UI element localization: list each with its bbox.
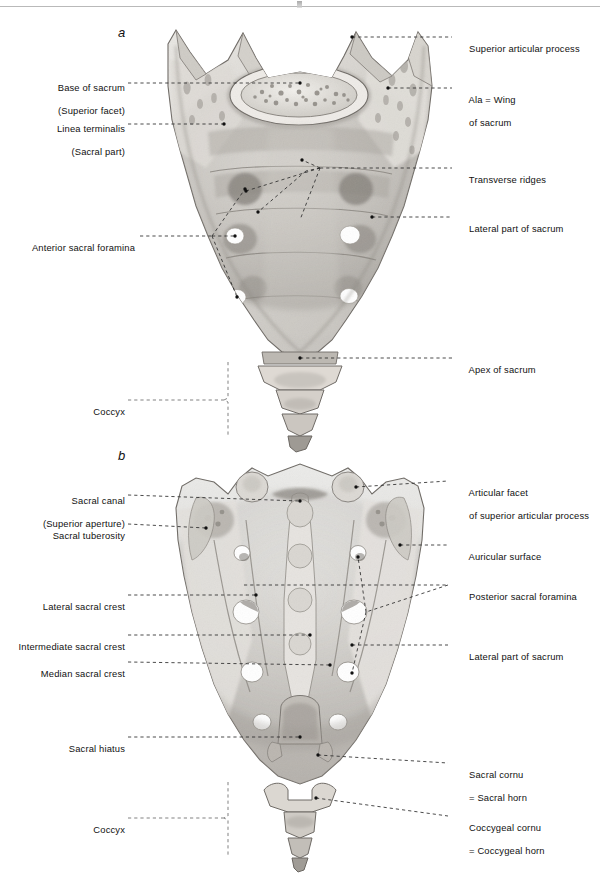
label-line-2: of sacrum xyxy=(469,117,512,128)
label-line-2: of superior articular process xyxy=(469,510,589,521)
label-linea-terminalis: Linea terminalis (Sacral part) xyxy=(0,112,125,169)
coccyx-brackets xyxy=(128,362,228,856)
panel-letter-b: b xyxy=(118,448,125,463)
label-anterior-sacral-foramina: Anterior sacral foramina xyxy=(0,231,135,265)
label-coccygeal-cornu: Coccygeal cornu = Coccygeal horn xyxy=(458,811,600,868)
coccyx-anterior-art xyxy=(258,366,342,452)
label-line-2: (Sacral part) xyxy=(71,146,125,157)
label-line-1: Intermediate sacral crest xyxy=(19,641,125,652)
figure-page: a b Base of sacrum (Superior facet) Line… xyxy=(0,0,600,885)
label-lateral-part-of-sacrum-b: Lateral part of sacrum xyxy=(458,640,600,674)
label-lateral-sacral-crest: Lateral sacral crest xyxy=(0,590,125,624)
coccyx-posterior-art xyxy=(264,783,336,872)
label-line-1: Ala = Wing xyxy=(469,94,516,105)
label-posterior-sacral-foramina: Posterior sacral foramina xyxy=(458,580,600,614)
label-coccyx-a: Coccyx xyxy=(25,395,125,429)
label-line-1: Base of sacrum xyxy=(58,82,125,93)
label-apex-of-sacrum: Apex of sacrum xyxy=(458,353,600,387)
label-line-1: Transverse ridges xyxy=(469,174,546,185)
label-line-1: Sacral hiatus xyxy=(69,743,125,754)
label-coccyx-b: Coccyx xyxy=(25,813,125,847)
sacrum-posterior-art xyxy=(150,462,450,872)
label-line-1: Median sacral crest xyxy=(41,668,125,679)
label-superior-articular-process: Superior articular process xyxy=(458,32,600,66)
leader-anchor-dots xyxy=(204,35,401,799)
label-line-1: Lateral part of sacrum xyxy=(469,223,564,234)
label-line-1: Sacral tuberosity xyxy=(53,530,125,541)
label-line-2: = Coccygeal horn xyxy=(469,845,545,856)
label-line-1: Posterior sacral foramina xyxy=(469,591,577,602)
label-sacral-tuberosity: Sacral tuberosity xyxy=(0,519,125,553)
label-auricular-surface: Auricular surface xyxy=(458,540,600,574)
sacrum-anterior-art xyxy=(150,25,450,452)
label-line-1: Auricular surface xyxy=(469,551,542,562)
label-line-1: Coccyx xyxy=(93,406,125,417)
label-line-1: Coccygeal cornu xyxy=(469,822,541,833)
label-transverse-ridges: Transverse ridges xyxy=(458,163,600,197)
page-top-mark xyxy=(297,1,302,8)
label-line-1: Apex of sacrum xyxy=(469,364,536,375)
label-line-2: = Sacral horn xyxy=(469,792,527,803)
label-line-1: Coccyx xyxy=(93,824,125,835)
label-median-sacral-crest: Median sacral crest xyxy=(0,657,125,691)
leader-lines xyxy=(128,37,452,816)
label-lateral-part-of-sacrum-a: Lateral part of sacrum xyxy=(458,212,600,246)
label-ala-wing-of-sacrum: Ala = Wing of sacrum xyxy=(458,83,600,140)
label-line-1: Lateral part of sacrum xyxy=(469,651,564,662)
panel-letter-a: a xyxy=(118,25,125,40)
label-line-1: Anterior sacral foramina xyxy=(32,242,135,253)
label-articular-facet: Articular facet of superior articular pr… xyxy=(458,476,600,533)
label-line-1: Superior articular process xyxy=(469,43,580,54)
label-sacral-hiatus: Sacral hiatus xyxy=(5,732,125,766)
label-sacral-cornu: Sacral cornu = Sacral horn xyxy=(458,758,600,815)
label-line-1: Sacral canal xyxy=(72,495,125,506)
label-line-1: Lateral sacral crest xyxy=(43,601,125,612)
label-line-1: Linea terminalis xyxy=(57,123,125,134)
label-line-1: Sacral cornu xyxy=(469,769,523,780)
label-line-1: Articular facet xyxy=(469,487,529,498)
